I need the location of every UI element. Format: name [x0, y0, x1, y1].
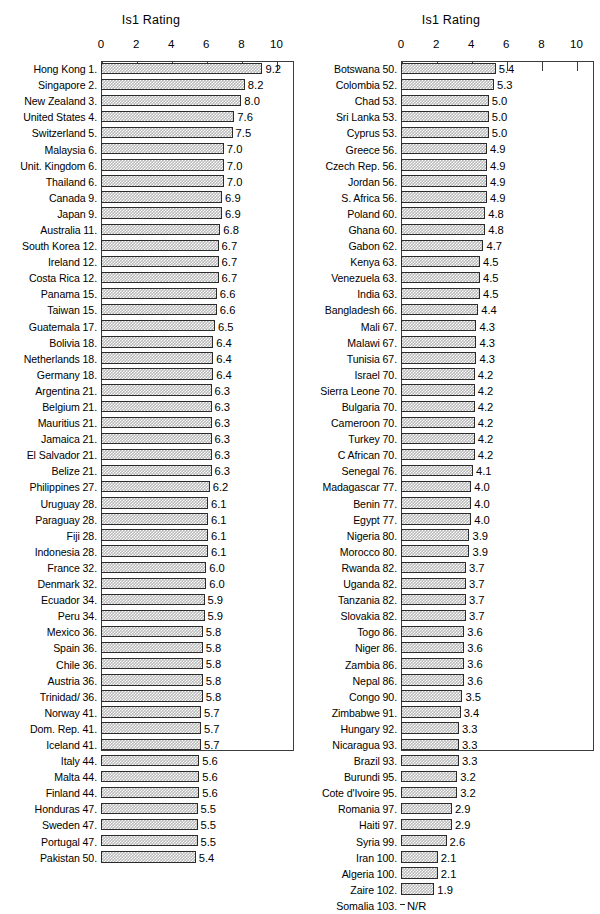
bar-value-label: 3.9 — [469, 528, 488, 544]
bar — [101, 529, 208, 540]
bar-row: Zambia 86.3.6 — [300, 656, 600, 672]
bar-track: 7.0 — [101, 158, 294, 174]
bar-category-label: Mauritius 21. — [0, 415, 99, 431]
bar-category-label: Portugal 47. — [0, 834, 99, 850]
bar-track: 5.5 — [101, 817, 294, 833]
bar-row: New Zealand 3.8.0 — [0, 93, 300, 109]
bar-track: 6.3 — [101, 431, 294, 447]
bar — [401, 578, 466, 589]
bar-category-label: Mexico 36. — [0, 624, 99, 640]
bar-category-label: Zimbabwe 91. — [300, 705, 399, 721]
bar-category-label: Uruguay 28. — [0, 496, 99, 512]
bar — [101, 722, 201, 733]
bar-category-label: Singapore 2. — [0, 77, 99, 93]
bar — [101, 159, 224, 170]
bar-category-label: Malta 44. — [0, 769, 99, 785]
bar-track: 5.7 — [101, 721, 294, 737]
bar-track: 6.3 — [101, 383, 294, 399]
bar-category-label: Spain 36. — [0, 640, 99, 656]
bar — [401, 384, 475, 395]
bar-category-label: Somalia 103. — [300, 898, 399, 914]
bar-row: Benin 77.4.0 — [300, 496, 600, 512]
bar-value-label: 4.5 — [480, 286, 499, 302]
bar-track: 5.6 — [101, 769, 294, 785]
bar-row: Zaire 102.1.9 — [300, 882, 600, 898]
bar-track: 6.7 — [101, 238, 294, 254]
bar — [101, 562, 206, 573]
bar-track: 3.7 — [401, 608, 594, 624]
bar-category-label: Panama 15. — [0, 286, 99, 302]
bar-track: 1.9 — [401, 882, 594, 898]
bar-category-label: Fiji 28. — [0, 528, 99, 544]
bar-track: 6.6 — [101, 286, 294, 302]
bar-track: 3.9 — [401, 528, 594, 544]
bar-category-label: Sweden 47. — [0, 817, 99, 833]
bar-track: 6.6 — [101, 302, 294, 318]
bar-value-label: 3.2 — [457, 769, 476, 785]
bar-category-label: Tunisia 67. — [300, 351, 399, 367]
bar-value-label: 6.0 — [206, 560, 225, 576]
x-tick-label: 6 — [203, 38, 209, 50]
bar-track: 4.9 — [401, 141, 594, 157]
x-tick-label: 6 — [503, 38, 509, 50]
bar-row: Sierra Leone 70.4.2 — [300, 383, 600, 399]
bar — [101, 384, 212, 395]
bar — [401, 143, 487, 154]
bar-row: Hungary 92.3.3 — [300, 721, 600, 737]
bar-category-label: C African 70. — [300, 447, 399, 463]
bar-value-label: 6.5 — [215, 319, 234, 335]
bar-value-label: 4.2 — [475, 415, 494, 431]
bar-value-label: 3.6 — [464, 624, 483, 640]
bar-value-label: N/R — [404, 898, 426, 914]
bar — [401, 175, 487, 186]
bar — [101, 304, 217, 315]
bar — [401, 304, 478, 315]
bar-track: 6.3 — [101, 399, 294, 415]
bar-row: Netherlands 18.6.4 — [0, 351, 300, 367]
bar-track: 8.0 — [101, 93, 294, 109]
bar-track: 3.5 — [401, 689, 594, 705]
bar-row: Switzerland 5.7.5 — [0, 125, 300, 141]
bar-category-label: Israel 70. — [300, 367, 399, 383]
bar-value-label: 2.6 — [447, 834, 466, 850]
bar-value-label: 6.4 — [213, 367, 232, 383]
bar-track: 6.4 — [101, 367, 294, 383]
bar-value-label: 3.7 — [466, 592, 485, 608]
bar-value-label: 6.3 — [212, 399, 231, 415]
bar-row: Malaysia 6.7.0 — [0, 141, 300, 157]
bar-track: 3.6 — [401, 624, 594, 640]
bar-category-label: Burundi 95. — [300, 769, 399, 785]
bar-track: 3.7 — [401, 576, 594, 592]
bar-row: Czech Rep. 56.4.9 — [300, 158, 600, 174]
bar-value-label: 4.4 — [478, 302, 497, 318]
bar-row: Algeria 100.2.1 — [300, 866, 600, 882]
bar-category-label: Taiwan 15. — [0, 302, 99, 318]
bar-value-label: 3.7 — [466, 560, 485, 576]
bar-track: 6.3 — [101, 463, 294, 479]
bar — [401, 674, 464, 685]
bar-row: Austria 36.5.8 — [0, 673, 300, 689]
bar — [101, 79, 245, 90]
bar-row: Portugal 47.5.5 — [0, 834, 300, 850]
bar-value-label: 5.8 — [203, 673, 222, 689]
bar-row: Cote d'Ivoire 95.3.2 — [300, 785, 600, 801]
bar — [101, 578, 206, 589]
bar-value-label: 4.0 — [471, 479, 490, 495]
bar-track: 2.1 — [401, 850, 594, 866]
bar-row: Poland 60.4.8 — [300, 206, 600, 222]
bar-track: 3.7 — [401, 560, 594, 576]
bar-category-label: Haiti 97. — [300, 817, 399, 833]
bar-value-label: 4.9 — [487, 174, 506, 190]
bar-category-label: Cote d'Ivoire 95. — [300, 785, 399, 801]
bar-track: 7.6 — [101, 109, 294, 125]
bar-value-label: 6.4 — [213, 351, 232, 367]
bar-value-label: 3.6 — [464, 656, 483, 672]
bar-value-label: 4.5 — [480, 254, 499, 270]
bar-row: S. Africa 56.4.9 — [300, 190, 600, 206]
bar — [101, 690, 203, 701]
bar-value-label: 7.0 — [224, 174, 243, 190]
bar-row: Greece 56.4.9 — [300, 141, 600, 157]
bar-category-label: Venezuela 63. — [300, 270, 399, 286]
bar-category-label: Zambia 86. — [300, 657, 399, 673]
bar-value-label: 5.0 — [489, 109, 508, 125]
